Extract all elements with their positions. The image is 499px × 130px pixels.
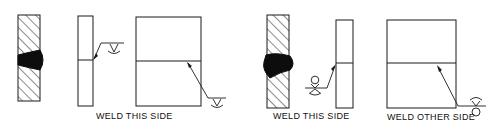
section-plate-2 [264,15,293,108]
section-plate-1 [18,15,43,101]
fillet-arc-icon [213,99,221,106]
caption-weld-this-side-1: WELD THIS SIDE [96,111,173,121]
plan-view-1 [136,17,201,106]
arrowhead-icon [93,53,98,60]
fillet-arc-icon [110,44,118,52]
narrow-plate-1 [78,16,93,106]
weld-all-around-icon [311,76,319,84]
weld-symbol-1 [93,43,124,60]
caption-weld-this-side-2: WELD THIS SIDE [273,111,350,121]
weld-symbol-3 [305,64,336,95]
weld-diagram [0,0,499,130]
narrow-plate-2 [336,20,353,108]
plan-view-2 [387,20,456,108]
caption-weld-other-side: WELD OTHER SIDE [387,112,475,122]
fillet-arc-icon [472,101,480,106]
